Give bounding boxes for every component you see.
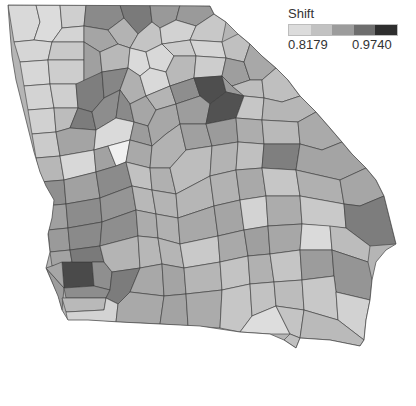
county[interactable] [194, 56, 226, 78]
county[interactable] [62, 262, 94, 288]
legend-title: Shift [288, 6, 314, 21]
county[interactable] [48, 42, 84, 60]
legend-bin-5 [375, 25, 397, 35]
county[interactable] [236, 118, 264, 144]
county[interactable] [268, 224, 302, 254]
county[interactable] [262, 144, 300, 170]
county[interactable] [274, 280, 304, 310]
county[interactable] [48, 60, 84, 84]
county[interactable] [40, 180, 66, 206]
county[interactable] [244, 226, 270, 256]
county[interactable] [236, 168, 266, 200]
county[interactable] [136, 210, 158, 238]
county[interactable] [160, 294, 188, 326]
county[interactable] [248, 254, 274, 284]
county[interactable] [50, 84, 78, 108]
county[interactable] [60, 5, 86, 28]
legend-color-bar [288, 24, 398, 36]
county[interactable] [210, 170, 240, 206]
county[interactable] [236, 142, 264, 170]
legend-bin-2 [311, 25, 333, 35]
county[interactable] [214, 200, 244, 236]
county[interactable] [300, 224, 332, 250]
county[interactable] [44, 204, 68, 230]
legend-max-label: 0.9740 [352, 37, 392, 52]
county[interactable] [262, 120, 300, 144]
legend-bin-3 [332, 25, 354, 35]
county[interactable] [162, 264, 186, 296]
county[interactable] [36, 156, 64, 182]
county[interactable] [270, 250, 302, 282]
georgia-county-map [0, 0, 416, 406]
county[interactable] [32, 132, 60, 158]
county[interactable] [262, 168, 300, 196]
county[interactable] [186, 290, 222, 328]
county[interactable] [300, 250, 334, 280]
county[interactable] [62, 298, 106, 312]
county[interactable] [240, 196, 268, 230]
legend-bin-4 [354, 25, 376, 35]
county[interactable] [266, 196, 302, 226]
county[interactable] [28, 108, 56, 134]
legend-bin-1 [289, 25, 311, 35]
county[interactable] [184, 262, 222, 294]
county[interactable] [20, 60, 50, 86]
county[interactable] [24, 84, 54, 110]
legend-min-label: 0.8179 [288, 37, 328, 52]
county[interactable] [14, 40, 52, 62]
legend: Shift 0.8179 0.9740 [286, 4, 410, 50]
county[interactable] [48, 228, 70, 252]
